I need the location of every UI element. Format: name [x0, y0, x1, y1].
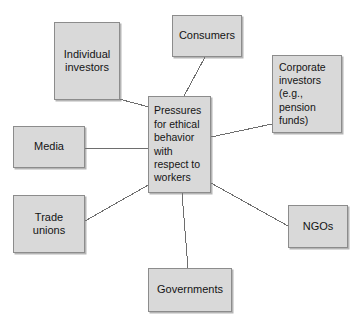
- node-label-pressures: Pressures for ethical behavior with resp…: [149, 104, 206, 185]
- connector-individual-investors-to-center: [119, 99, 149, 107]
- diagram-canvas: Pressures for ethical behavior with resp…: [0, 0, 354, 324]
- node-consumers[interactable]: Consumers: [172, 15, 242, 57]
- connector-trade-unions-to-center: [85, 184, 150, 221]
- node-corporate-investors[interactable]: Corporate investors (e.g., pension funds…: [272, 55, 342, 133]
- node-individual-investors[interactable]: Individual investors: [54, 22, 120, 100]
- node-label-individual-investors: Individual investors: [61, 48, 113, 75]
- node-governments[interactable]: Governments: [148, 268, 232, 312]
- connector-governments-to-center: [182, 193, 188, 268]
- node-label-governments: Governments: [154, 283, 226, 296]
- connector-consumers-to-center: [184, 57, 205, 96]
- node-label-consumers: Consumers: [176, 29, 238, 42]
- node-media[interactable]: Media: [13, 126, 85, 168]
- node-trade-unions[interactable]: Trade unions: [13, 195, 85, 253]
- node-label-trade-unions: Trade unions: [30, 211, 68, 238]
- node-pressures[interactable]: Pressures for ethical behavior with resp…: [148, 96, 211, 193]
- connector-ngos-to-center: [211, 183, 288, 226]
- node-ngos[interactable]: NGOs: [288, 205, 348, 248]
- node-label-ngos: NGOs: [300, 220, 337, 233]
- node-label-corporate-investors: Corporate investors (e.g., pension funds…: [273, 61, 332, 126]
- node-label-media: Media: [31, 140, 67, 153]
- connector-corporate-investors-to-center: [211, 124, 272, 137]
